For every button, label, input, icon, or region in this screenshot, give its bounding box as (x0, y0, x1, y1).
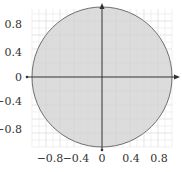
x-axis-left-dot-icon (26, 76, 29, 79)
y-tick: −0.4 (0, 95, 22, 108)
disk-chart: 0.8 0.4 0 −0.4 −0.8 −0.8 −0.4 0 0.4 0.8 (0, 0, 182, 172)
y-axis-bottom-dot-icon (101, 149, 104, 152)
y-tick: 0.4 (5, 46, 23, 59)
axes (27, 6, 176, 149)
x-tick: −0.4 (63, 152, 90, 165)
y-axis-arrow-icon (100, 3, 105, 9)
x-axis-arrow-icon (174, 75, 180, 80)
x-tick: −0.8 (37, 152, 64, 165)
y-tick: −0.8 (0, 123, 22, 136)
x-tick-labels: −0.8 −0.4 0 0.4 0.8 (37, 152, 168, 165)
x-tick: 0 (99, 152, 106, 165)
x-tick: 0.4 (122, 152, 140, 165)
y-tick: 0.8 (5, 18, 23, 31)
y-tick: 0 (15, 71, 22, 84)
y-tick-labels: 0.8 0.4 0 −0.4 −0.8 (0, 18, 22, 136)
x-tick: 0.8 (150, 152, 168, 165)
